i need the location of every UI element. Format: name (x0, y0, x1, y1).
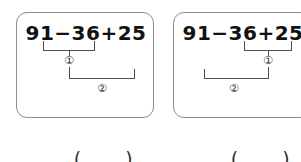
problem-left-answer-close: ) (125, 148, 132, 162)
problem-right-answer-open: ( (231, 148, 238, 162)
problem-right-step1-marker: ① (263, 55, 273, 66)
problem-right-step2-marker: ② (229, 83, 239, 94)
problem-left-step2-bracket (69, 69, 135, 79)
problem-right-step2-bracket (204, 69, 268, 79)
problem-left-answer-open: ( (74, 148, 81, 162)
problem-right-answer-close: ) (282, 148, 289, 162)
problem-right-answer-slot[interactable]: () (173, 126, 301, 162)
problem-right-step1-bracket (244, 41, 292, 51)
problem-right-card: 91−36+25 ① ② (173, 12, 301, 118)
problem-left-step1-bracket (43, 41, 95, 51)
problem-left-step2-marker: ② (97, 83, 107, 94)
problem-left-card: 91−36+25 ① ② (16, 12, 154, 118)
problem-right: 91−36+25 ① ② () (173, 0, 301, 162)
problem-left-step1-marker: ① (64, 55, 74, 66)
problem-left-answer-slot[interactable]: () (16, 126, 154, 162)
worksheet-root: 91−36+25 ① ② () 91−36+25 ① ② (0, 0, 301, 162)
problem-left: 91−36+25 ① ② () (16, 0, 156, 162)
problem-right-step2-right-leg (268, 67, 269, 79)
